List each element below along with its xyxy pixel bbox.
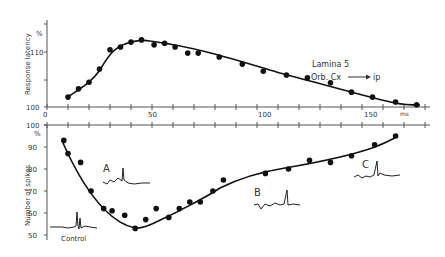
data-point: [261, 68, 267, 74]
annotation-lamina: Lamina 5: [312, 60, 349, 69]
x-unit-label: ms: [400, 110, 409, 117]
x-tick-label-0: 0: [43, 111, 47, 119]
data-point: [307, 157, 313, 163]
data-point: [172, 44, 178, 50]
data-point: [118, 44, 124, 50]
data-point: [122, 212, 128, 218]
data-point: [198, 199, 204, 205]
data-point: [286, 166, 292, 172]
top-fit-curve: [68, 40, 420, 105]
data-point: [128, 39, 134, 45]
data-point: [78, 160, 84, 166]
data-point: [86, 79, 92, 85]
x-tick-label-100: 100: [258, 111, 271, 119]
data-point: [349, 89, 355, 95]
data-point: [151, 42, 157, 48]
top-data-points: [65, 37, 419, 108]
data-point: [162, 40, 168, 46]
data-point: [393, 99, 399, 105]
data-point: [372, 142, 378, 148]
inset-a-trace: [103, 168, 150, 184]
data-point: [139, 37, 145, 43]
inset-control-trace: [50, 212, 97, 229]
inset-control-label: Control: [61, 235, 86, 243]
y-tick-label: 90: [28, 144, 37, 152]
data-point: [187, 199, 193, 205]
inset-b-label: B: [254, 187, 261, 198]
top-y-tick-label-110: 110: [30, 49, 43, 57]
data-point: [221, 177, 227, 183]
inset-a-label: A: [103, 163, 110, 174]
data-point: [393, 133, 399, 139]
top-panel: % 110 100 Response latency Lamina 5 Orb.…: [24, 20, 430, 112]
data-point: [97, 66, 103, 72]
data-point: [76, 86, 82, 92]
x-tick-label-150: 150: [364, 111, 377, 119]
data-point: [284, 72, 290, 78]
inset-c-label: C: [362, 159, 369, 170]
data-point: [195, 50, 201, 56]
data-point: [185, 50, 191, 56]
annotation-orb-cx: Orb. Cx: [311, 73, 341, 82]
data-point: [143, 217, 149, 223]
top-y-tick-label-100: 100: [26, 104, 39, 112]
bottom-y-axis-label: Number of spikes: [24, 165, 32, 226]
y-tick-label: 50: [28, 232, 37, 240]
inset-c-trace: [354, 161, 400, 178]
inset-b-trace: [254, 190, 300, 209]
data-point: [305, 75, 311, 81]
data-point: [153, 206, 159, 212]
arrow-head-icon: [366, 75, 371, 80]
data-point: [210, 188, 216, 194]
data-point: [240, 61, 246, 67]
data-point: [88, 188, 94, 194]
top-y-axis-label: Response latency: [24, 33, 32, 95]
data-point: [107, 47, 113, 53]
data-point: [65, 151, 71, 157]
data-point: [132, 226, 138, 232]
data-point: [166, 215, 172, 221]
top-y-unit: %: [36, 30, 43, 38]
bottom-panel: 5060708090100 % Number of spikes Control…: [24, 122, 430, 244]
data-point: [216, 54, 222, 60]
data-point: [414, 102, 420, 108]
data-point: [263, 171, 269, 177]
data-point: [101, 206, 107, 212]
annotation-ip: ip: [373, 73, 380, 82]
x-tick-label-50: 50: [148, 111, 157, 119]
bottom-y-unit: %: [34, 130, 41, 138]
data-point: [177, 206, 183, 212]
data-point: [109, 208, 115, 214]
data-point: [328, 160, 334, 166]
data-point: [349, 153, 355, 159]
data-point: [61, 138, 67, 144]
figure: % 110 100 Response latency Lamina 5 Orb.…: [0, 0, 445, 257]
data-point: [65, 94, 71, 100]
y-tick-label: 100: [26, 122, 39, 130]
data-point: [370, 94, 376, 100]
